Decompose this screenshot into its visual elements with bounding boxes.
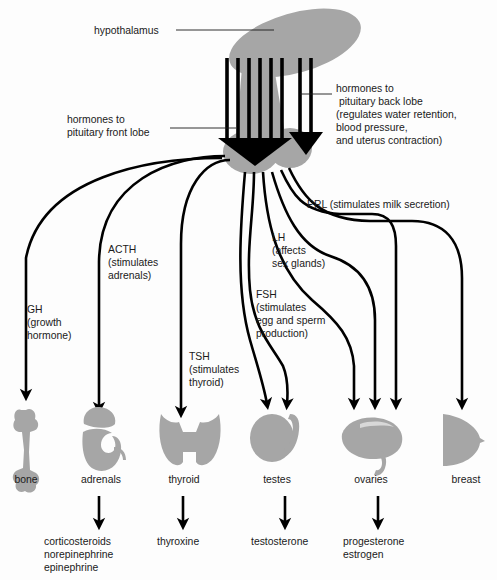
label-back-lobe-line4: blood pressure, (336, 122, 408, 133)
diagram-canvas: hypothalamus hormones to pituitary front… (0, 0, 497, 580)
label-back-lobe-line2: pituitary back lobe (339, 96, 423, 107)
flow-fsh-testes (249, 172, 288, 404)
label-gh-line2: (growth (27, 317, 62, 328)
label-lh-line1: LH (272, 232, 285, 243)
label-back-lobe-line5: and uterus contraction) (336, 135, 442, 146)
label-hypothalamus: hypothalamus (94, 25, 159, 36)
label-acth-line3: adrenals) (108, 270, 151, 281)
organ-shape-thyroid (159, 414, 220, 465)
product-label-testes-line1: testosterone (251, 536, 308, 547)
label-fsh-line3: egg and sperm (256, 315, 325, 326)
label-acth-line2: (stimulates (108, 257, 158, 268)
label-prl-line1: PRL (stimulates milk secretion) (307, 199, 450, 210)
label-lh-line3: sex glands) (272, 258, 325, 269)
organ-shape-ovaries (342, 418, 402, 476)
label-fsh-line2: (stimulates (256, 302, 306, 313)
product-label-adrenals-line2: norepinephrine (44, 549, 114, 560)
label-front-lobe-line1: hormones to (67, 114, 125, 125)
label-fsh-line4: production) (256, 328, 308, 339)
label-front-lobe-line2: pituitary front lobe (67, 127, 150, 138)
organ-label-adrenals: adrenals (81, 474, 121, 485)
product-label-ovaries-line2: estrogen (343, 549, 384, 560)
label-back-lobe-line1: hormones to (336, 83, 394, 94)
label-tsh-line1: TSH (189, 351, 210, 362)
label-tsh-line2: (stimulates (189, 364, 239, 375)
organ-label-testes: testes (263, 474, 291, 485)
organ-label-breast: breast (452, 474, 481, 485)
organ-shape-adrenals (82, 407, 126, 471)
organ-label-thyroid: thyroid (168, 474, 199, 485)
organ-label-bone: bone (14, 474, 37, 485)
label-lh-line2: (affects (272, 245, 306, 256)
label-back-lobe-line3: (regulates water retention, (336, 109, 457, 120)
flow-lh-testes (240, 172, 267, 404)
label-acth-line1: ACTH (108, 244, 136, 255)
organ-shape-testes (250, 414, 299, 462)
product-label-adrenals-line1: corticosteroids (44, 536, 111, 547)
label-fsh-line1: FSH (256, 289, 277, 300)
label-gh-line3: hormone) (27, 330, 71, 341)
product-label-thyroid-line1: thyroxine (157, 536, 199, 547)
label-gh-line1: GH (27, 304, 43, 315)
label-tsh-line3: thyroid) (189, 377, 224, 388)
endocrine-diagram: hypothalamus hormones to pituitary front… (0, 0, 497, 580)
organ-label-ovaries: ovaries (354, 474, 388, 485)
product-label-ovaries-line1: progesterone (343, 536, 404, 547)
organ-shape-breast (443, 414, 485, 466)
product-label-adrenals-line3: epinephrine (44, 562, 99, 573)
